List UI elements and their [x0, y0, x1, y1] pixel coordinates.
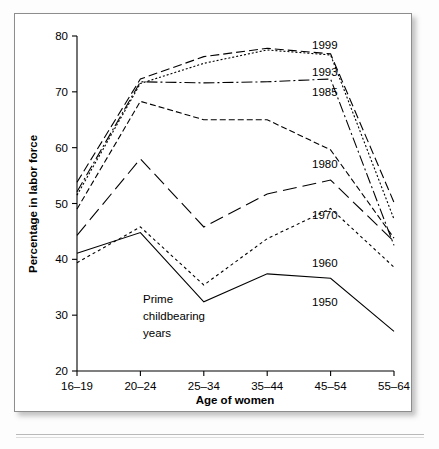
series-line-1993 [77, 50, 394, 219]
series-line-1999 [77, 48, 394, 202]
series-lines-group [77, 48, 394, 331]
y-tick-label: 50 [55, 198, 68, 210]
y-tick-label: 60 [55, 142, 68, 154]
x-tick-label: 45–54 [315, 380, 348, 392]
series-label-1980: 1980 [312, 158, 338, 170]
series-label-1960: 1960 [312, 257, 338, 269]
x-tick-label: 16–19 [61, 380, 93, 392]
x-tick-label: 25–34 [188, 380, 221, 392]
x-tick-label: 35–44 [251, 380, 284, 392]
series-line-1950 [77, 233, 394, 332]
y-tick-label: 30 [55, 309, 68, 321]
y-axis-ticks: 20304050607080 [55, 30, 77, 377]
annotation-line: Prime [143, 293, 173, 305]
y-tick-label: 40 [55, 253, 68, 265]
series-label-1999: 1999 [312, 39, 338, 51]
line-chart: 20304050607080 16–1920–2425–3435–4445–54… [15, 14, 411, 411]
annotation-line: childbearing [143, 310, 205, 322]
chart-axes [77, 36, 394, 371]
x-tick-label: 20–24 [124, 380, 157, 392]
y-axis-title: Percentage in labor force [27, 135, 39, 273]
prime-childbearing-annotation: Primechildbearingyears [143, 293, 205, 339]
series-label-1985: 1985 [312, 86, 338, 98]
series-line-1960 [77, 209, 394, 285]
y-tick-label: 80 [55, 30, 68, 42]
footer-divider [16, 434, 424, 435]
y-tick-label: 20 [55, 365, 68, 377]
annotation-line: years [143, 327, 171, 339]
footer-divider-secondary [16, 437, 424, 438]
x-tick-label: 55–64 [378, 380, 411, 392]
y-tick-label: 70 [55, 86, 68, 98]
x-axis-title: Age of women [196, 394, 275, 406]
series-label-1970: 1970 [312, 209, 338, 221]
series-label-1950: 1950 [312, 296, 338, 308]
series-label-1993: 1993 [312, 66, 338, 78]
x-axis-ticks: 16–1920–2425–3435–4445–5455–64 [61, 371, 411, 392]
figure-card: 20304050607080 16–1920–2425–3435–4445–54… [14, 13, 412, 412]
